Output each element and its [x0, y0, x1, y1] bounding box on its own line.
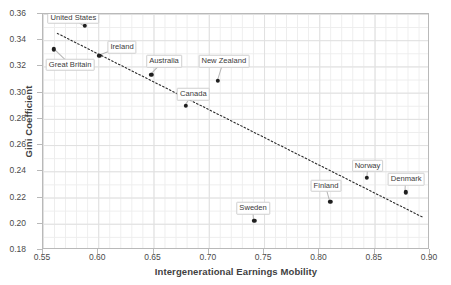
x-axis-tick-mark — [263, 249, 264, 254]
data-point-label: United States — [48, 13, 100, 24]
plot-area: United StatesGreat BritainIrelandAustral… — [42, 13, 429, 249]
y-axis-tick-label: 0.20 — [0, 218, 26, 228]
x-axis-title: Intergenerational Earnings Mobility — [42, 266, 430, 277]
x-axis-tick-mark — [97, 249, 98, 254]
y-axis-tick-label: 0.30 — [0, 87, 26, 97]
x-axis-tick-mark — [318, 249, 319, 254]
data-point-label: Denmark — [388, 173, 425, 185]
y-axis-tick-label: 0.32 — [0, 60, 26, 70]
data-point-label: Australia — [146, 55, 182, 67]
y-axis-tick-label: 0.24 — [0, 165, 26, 175]
scatter-chart: Gini Coefficient Intergenerational Earni… — [0, 0, 451, 285]
y-axis-tick-label: 0.34 — [0, 34, 26, 44]
data-point-label: Canada — [177, 88, 210, 100]
x-axis-tick-mark — [429, 249, 430, 254]
y-axis-tick-label: 0.22 — [0, 192, 26, 202]
x-axis-tick-mark — [208, 249, 209, 254]
data-point-label: Sweden — [236, 202, 269, 214]
x-axis-tick-mark — [374, 249, 375, 254]
data-point-label: Finland — [311, 180, 342, 192]
data-point-label: Ireland — [107, 41, 136, 53]
y-axis-tick-label: 0.26 — [0, 139, 26, 149]
data-point-label: New Zealand — [198, 55, 249, 67]
y-axis-tick-label: 0.28 — [0, 113, 26, 123]
data-point-label: Great Britain — [46, 58, 95, 70]
y-axis-tick-label: 0.36 — [0, 8, 26, 18]
data-point-label: Norway — [352, 160, 384, 172]
x-axis-tick-mark — [153, 249, 154, 254]
x-axis-tick-mark — [42, 249, 43, 254]
